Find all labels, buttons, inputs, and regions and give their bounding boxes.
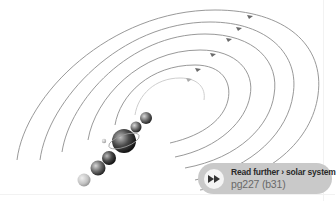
planet-venus <box>131 122 142 133</box>
orbit-5 <box>40 22 294 180</box>
planet-mercury <box>140 112 152 124</box>
callout-title: Read further › solar system <box>231 168 336 177</box>
callout-reference: pg227 (b31) <box>231 179 336 190</box>
orbit-1 <box>135 78 204 115</box>
planets <box>78 112 153 187</box>
read-further-callout[interactable]: Read further › solar system pg227 (b31) <box>198 163 332 194</box>
planet-uranus <box>91 161 106 176</box>
fast-forward-icon <box>208 175 220 183</box>
planet-jupiter <box>112 129 136 153</box>
planet-saturn <box>102 151 116 165</box>
orbit-2 <box>115 65 229 143</box>
moon <box>102 139 106 143</box>
planet-neptune <box>78 174 91 187</box>
fast-forward-button[interactable] <box>204 169 224 189</box>
